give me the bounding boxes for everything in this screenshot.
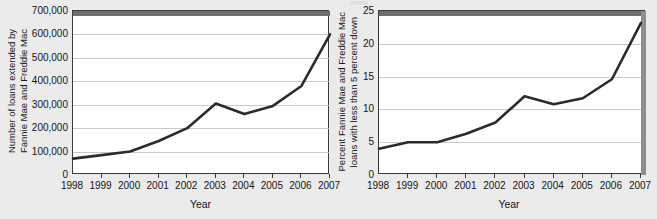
data-line (73, 34, 330, 158)
x-tick-label: 1999 (396, 180, 418, 191)
y-tick-label: 10 (318, 103, 374, 114)
y-tick-label: 15 (318, 70, 374, 81)
x-tick-mark (300, 174, 301, 178)
x-tick-label: 2001 (454, 180, 476, 191)
x-tick-mark (524, 174, 525, 178)
data-line (379, 23, 641, 149)
x-tick-mark (158, 174, 159, 178)
x-tick-label: 1998 (367, 180, 389, 191)
x-tick-label: 2005 (571, 180, 593, 191)
x-tick-mark (640, 174, 641, 178)
y-tick-label: 25 (318, 5, 374, 16)
gridline (73, 128, 330, 129)
y-axis-title-right: Percent Fannie Mae and Freddie Mac loans… (334, 10, 360, 173)
x-tick-mark (129, 174, 130, 178)
x-tick-mark (553, 174, 554, 178)
x-tick-label: 2006 (289, 180, 311, 191)
y-tick-label: 200,000 (12, 122, 68, 133)
x-tick-mark (407, 174, 408, 178)
plot-top-shadow-left (73, 11, 330, 16)
x-tick-label: 2001 (147, 180, 169, 191)
gridline (379, 44, 641, 45)
x-tick-label: 2004 (232, 180, 254, 191)
data-series-layer (379, 11, 641, 175)
y-tick-label: 0 (12, 169, 68, 180)
y-tick-label: 5 (318, 136, 374, 147)
y-tick-label: 600,000 (12, 28, 68, 39)
y-axis-title-left-text: Number of loans extended by Fannie Mae a… (6, 29, 29, 153)
x-tick-label: 2002 (175, 180, 197, 191)
data-series-layer (73, 11, 330, 175)
x-tick-label: 2000 (425, 180, 447, 191)
gridline (379, 142, 641, 143)
y-axis-title-right-text: Percent Fannie Mae and Freddie Mac loans… (336, 12, 359, 171)
gridline (73, 105, 330, 106)
gridline (73, 58, 330, 59)
x-tick-label: 1998 (61, 180, 83, 191)
figure-canvas: Number of loans extended by Fannie Mae a… (0, 0, 657, 219)
x-tick-label: 2006 (600, 180, 622, 191)
x-tick-mark (186, 174, 187, 178)
y-tick-label: 500,000 (12, 51, 68, 62)
gridline (73, 81, 330, 82)
x-tick-label: 2004 (542, 180, 564, 191)
y-tick-label: 400,000 (12, 75, 68, 86)
x-tick-label: 2005 (261, 180, 283, 191)
x-tick-mark (243, 174, 244, 178)
x-tick-label: 2000 (118, 180, 140, 191)
x-tick-mark (215, 174, 216, 178)
gridline (73, 34, 330, 35)
x-tick-mark (494, 174, 495, 178)
chart-panel-percent: Percent Fannie Mae and Freddie Mac loans… (330, 0, 657, 219)
x-tick-mark (582, 174, 583, 178)
x-tick-label: 1999 (89, 180, 111, 191)
y-tick-label: 0 (318, 169, 374, 180)
plot-top-shadow-right (379, 11, 646, 16)
x-tick-label: 2003 (204, 180, 226, 191)
x-tick-mark (465, 174, 466, 178)
y-tick-label: 700,000 (12, 5, 68, 16)
x-axis-title: Year (190, 198, 211, 210)
x-axis-title: Year (498, 198, 519, 210)
gridline (379, 77, 641, 78)
plot-area-left (72, 10, 329, 174)
x-tick-mark (101, 174, 102, 178)
x-tick-label: 2002 (483, 180, 505, 191)
x-tick-label: 2007 (629, 180, 651, 191)
y-tick-label: 100,000 (12, 145, 68, 156)
y-tick-label: 300,000 (12, 98, 68, 109)
x-tick-mark (272, 174, 273, 178)
plot-right-shadow-right (641, 11, 646, 175)
gridline (379, 109, 641, 110)
x-tick-mark (611, 174, 612, 178)
gridline (73, 152, 330, 153)
x-tick-mark (436, 174, 437, 178)
plot-area-right (378, 10, 645, 174)
chart-panel-loans: Number of loans extended by Fannie Mae a… (0, 0, 330, 219)
y-tick-label: 20 (318, 37, 374, 48)
x-tick-label: 2003 (512, 180, 534, 191)
